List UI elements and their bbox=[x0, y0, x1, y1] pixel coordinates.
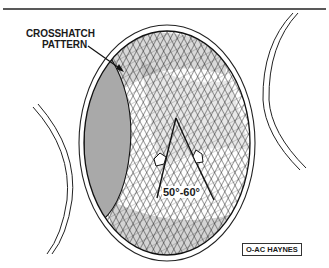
callout-label-line1: CROSSHATCH bbox=[26, 28, 95, 39]
right-adjacent-cylinder bbox=[263, 13, 306, 170]
callout-label-line2: PATTERN bbox=[42, 39, 87, 50]
credit-box: O-AC HAYNES bbox=[242, 243, 302, 256]
crosshatch-diagram: CROSSHATCH PATTERN 50°-60° O-AC HAYNES bbox=[0, 0, 329, 268]
left-adjacent-cylinder bbox=[33, 104, 73, 254]
angle-label: 50°-60° bbox=[162, 186, 201, 198]
